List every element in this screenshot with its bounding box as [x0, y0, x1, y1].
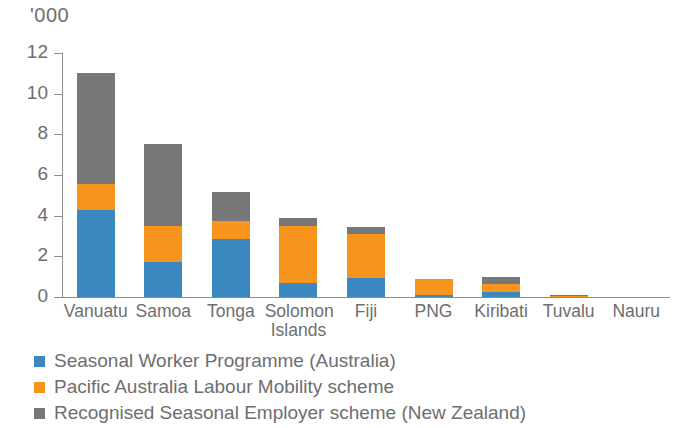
legend-swatch-orange — [34, 382, 45, 393]
bar-segment — [415, 295, 453, 297]
bar-segment — [550, 296, 588, 297]
chart-legend: Seasonal Worker Programme (Australia)Pac… — [34, 348, 674, 426]
bar-stack — [77, 73, 115, 297]
legend-label: Seasonal Worker Programme (Australia) — [54, 350, 396, 372]
bar-segment — [144, 262, 182, 297]
bar-segment — [279, 283, 317, 297]
y-axis-tick-label: 6 — [14, 163, 48, 185]
bar-stack — [279, 218, 317, 297]
y-axis-tick-label: 0 — [14, 285, 48, 307]
bar-segment — [482, 292, 520, 297]
bar-stack — [347, 227, 385, 297]
x-axis-label: PNG — [400, 302, 468, 321]
bar-segment — [482, 277, 520, 284]
bar-stack — [144, 144, 182, 298]
bar-segment — [347, 278, 385, 297]
legend-item[interactable]: Pacific Australia Labour Mobility scheme — [34, 374, 674, 400]
y-axis-tick-label: 12 — [14, 41, 48, 63]
bar-segment — [212, 221, 250, 239]
bar-stack — [415, 279, 453, 297]
legend-label: Pacific Australia Labour Mobility scheme — [54, 376, 394, 398]
x-axis-label: Vanuatu — [62, 302, 130, 321]
y-axis-tick-label: 8 — [14, 122, 48, 144]
legend-label: Recognised Seasonal Employer scheme (New… — [54, 402, 526, 424]
y-axis-tick-label: 10 — [14, 82, 48, 104]
bar-segment — [347, 227, 385, 234]
bar-segment — [77, 73, 115, 184]
bars-area: VanuatuSamoaTongaSolomon IslandsFijiPNGK… — [62, 0, 670, 310]
bar-segment — [212, 192, 250, 220]
bar-segment — [279, 226, 317, 283]
legend-item[interactable]: Seasonal Worker Programme (Australia) — [34, 348, 674, 374]
bar-segment — [347, 234, 385, 278]
bar-segment — [144, 144, 182, 226]
x-axis-label: Tuvalu — [535, 302, 603, 321]
y-axis-tick-label: 4 — [14, 204, 48, 226]
x-axis-label: Samoa — [130, 302, 198, 321]
bar-stack — [212, 192, 250, 297]
y-axis-tick-label: 2 — [14, 244, 48, 266]
bar-segment — [144, 226, 182, 263]
bar-segment — [77, 184, 115, 209]
x-axis-label: Tonga — [197, 302, 265, 321]
plot-area: 024681012 VanuatuSamoaTongaSolomon Islan… — [0, 0, 684, 310]
bar-segment — [279, 218, 317, 226]
bar-segment — [77, 210, 115, 297]
legend-item[interactable]: Recognised Seasonal Employer scheme (New… — [34, 400, 674, 426]
legend-swatch-blue — [34, 356, 45, 367]
bar-stack — [550, 295, 588, 297]
x-axis-label: Kiribati — [467, 302, 535, 321]
bar-segment — [482, 284, 520, 292]
bar-stack — [482, 277, 520, 297]
x-axis-label: Fiji — [332, 302, 400, 321]
legend-swatch-grey — [34, 408, 45, 419]
x-axis-label: Solomon Islands — [265, 302, 333, 340]
bar-segment — [212, 239, 250, 297]
stacked-bar-chart: '000 024681012 VanuatuSamoaTongaSolomon … — [0, 0, 684, 428]
bar-segment — [415, 279, 453, 295]
x-axis-label: Nauru — [602, 302, 670, 321]
